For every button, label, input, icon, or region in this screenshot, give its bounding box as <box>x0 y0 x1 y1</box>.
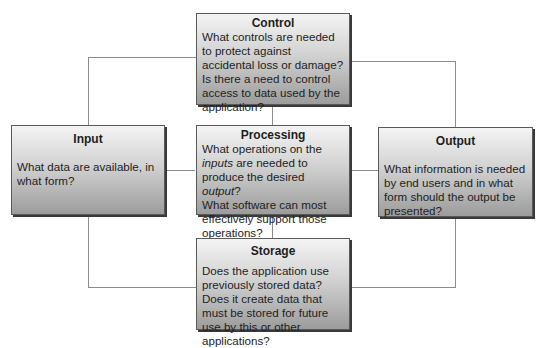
control-question-2: Is there a need to control access to dat… <box>202 72 344 114</box>
output-question: What information is needed by end users … <box>384 162 527 218</box>
processing-question-2: What software can most effectively suppo… <box>202 198 344 240</box>
connector-processing-output <box>350 170 378 171</box>
storage-question-2: Does it create data that must be stored … <box>202 292 344 348</box>
processing-title: Processing <box>202 128 344 142</box>
input-box: Input What data are available, in what f… <box>11 125 165 215</box>
connector-top-right-horizontal <box>350 61 456 62</box>
storage-box: Storage Does the application use previou… <box>196 238 350 330</box>
processing-text: ? <box>234 184 240 197</box>
processing-text: What operations on the <box>202 142 322 155</box>
processing-inputs-emphasis: inputs <box>202 156 233 169</box>
processing-box: Processing What operations on the inputs… <box>196 125 350 215</box>
processing-output-emphasis: output <box>202 184 234 197</box>
output-title: Output <box>384 134 527 148</box>
connector-input-processing <box>165 170 195 171</box>
processing-question-1: What operations on the inputs are needed… <box>202 142 344 198</box>
storage-question-1: Does the application use previously stor… <box>202 264 344 292</box>
control-question-1: What controls are needed to protect agai… <box>202 30 344 72</box>
input-question: What data are available, in what form? <box>17 160 159 188</box>
storage-title: Storage <box>202 244 344 258</box>
connector-bottom-left-horizontal <box>88 287 196 288</box>
connector-top-left-horizontal <box>88 57 196 58</box>
control-box: Control What controls are needed to prot… <box>196 13 350 105</box>
output-box: Output What information is needed by end… <box>378 127 533 217</box>
control-title: Control <box>202 16 344 30</box>
input-title: Input <box>17 132 159 146</box>
connector-bottom-right-horizontal <box>350 287 456 288</box>
